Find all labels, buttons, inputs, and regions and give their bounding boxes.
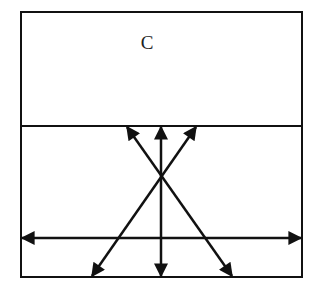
force-diagram: C xyxy=(0,0,320,293)
region-label-c: C xyxy=(141,32,154,53)
